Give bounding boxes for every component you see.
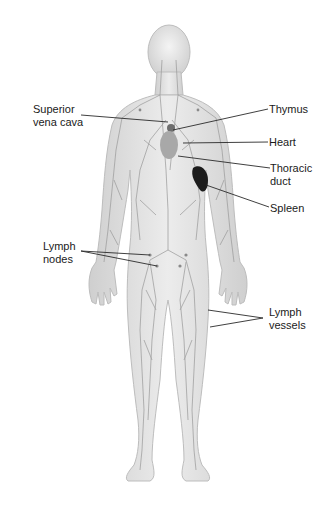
label-thoracic-duct-line2: duct (270, 175, 312, 188)
leader-lymph-vessels-2 (210, 318, 263, 327)
label-lymph-vessels: Lymph vessels (269, 306, 306, 332)
label-thymus: Thymus (269, 103, 308, 116)
label-lymph-nodes: Lymph nodes (43, 240, 76, 266)
thymus-shape (167, 124, 175, 132)
label-thoracic-duct-line1: Thoracic (270, 162, 312, 175)
label-spleen: Spleen (270, 202, 304, 215)
label-lymph-nodes-line2: nodes (43, 253, 76, 266)
label-lymph-nodes-line1: Lymph (43, 240, 76, 253)
label-lymph-vessels-line1: Lymph (269, 306, 306, 319)
heart-shape (160, 131, 178, 159)
label-superior-vena-cava: Superior vena cava (33, 103, 83, 129)
lymphatic-system-figure: Superior vena cava Thymus Heart Thoracic… (0, 0, 333, 509)
label-superior-vena-cava-line2: vena cava (33, 116, 83, 129)
label-superior-vena-cava-line1: Superior (33, 103, 83, 116)
label-lymph-vessels-line2: vessels (269, 319, 306, 332)
leader-lymph-vessels-1 (208, 310, 263, 318)
label-thoracic-duct: Thoracic duct (270, 162, 312, 188)
label-heart: Heart (269, 136, 296, 149)
